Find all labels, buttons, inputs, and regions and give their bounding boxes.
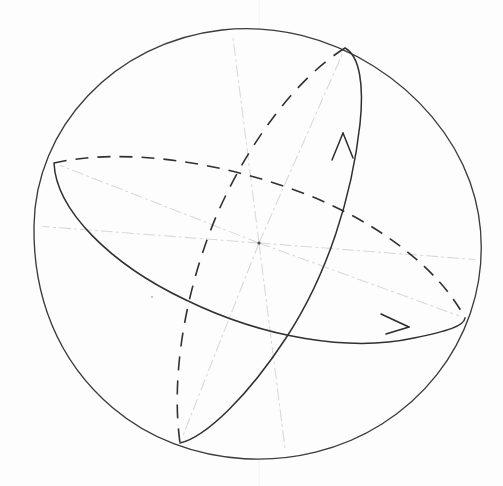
stray-pencil-mark [151, 296, 153, 298]
axis-line-to-right-vertex [259, 243, 459, 316]
sphere-center-dot [257, 241, 260, 244]
axis-line-west [43, 227, 259, 243]
axis-line-north [233, 36, 259, 243]
equatorial-arrow-icon [381, 314, 409, 334]
figure-svg [0, 0, 503, 486]
sphere-orbit-figure [0, 0, 503, 486]
meridional-orbit-front-solid [180, 48, 361, 443]
meridional-orbit-back-dashed [177, 48, 345, 443]
equatorial-orbit-back-dashed [54, 157, 465, 318]
axis-line-east [259, 243, 475, 259]
equatorial-orbit-front-solid [54, 163, 465, 343]
axis-line-to-left-vertex [60, 165, 259, 243]
meridional-arrow-icon [332, 133, 353, 160]
axis-line-to-top-vertex [259, 54, 342, 243]
axis-line-to-bottom-vertex [182, 243, 259, 437]
